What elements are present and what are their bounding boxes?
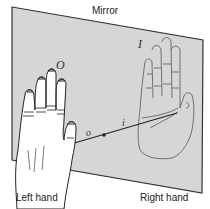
image-label: I: [138, 37, 142, 52]
diagram-svg: [0, 0, 210, 209]
image-distance-label: i: [122, 117, 125, 128]
right-hand-label: Right hand: [140, 192, 188, 203]
left-hand-label: Left hand: [16, 192, 58, 203]
mirror-intersection-point: [102, 133, 106, 137]
mirror-reflection-diagram: Mirror O I o i Left hand Right hand: [0, 0, 210, 209]
object-distance-label: o: [86, 127, 91, 138]
object-label: O: [56, 58, 65, 73]
mirror-title: Mirror: [92, 5, 118, 16]
